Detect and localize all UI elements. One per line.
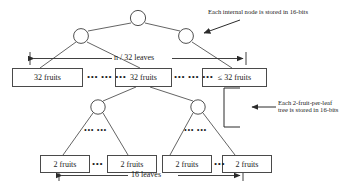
- edge-right-to-box3: [192, 42, 232, 68]
- bottom-leaf-box-4[interactable]: 2 fruits: [222, 155, 272, 173]
- bottom-ellipsis-1: •••: [92, 159, 103, 169]
- top-leaf-box-3-label: ≤ 32 fruits: [218, 73, 251, 82]
- root-node-circle: [130, 10, 145, 25]
- leaf-tree-note: Each 2-fruit-per-leaf tree is stored in …: [278, 99, 338, 114]
- left-internal-node-circle: [74, 29, 89, 44]
- bottom-leaf-box-2-label: 2 fruits: [121, 160, 144, 169]
- top-span-label: n / 32 leaves: [114, 54, 154, 63]
- top-ellipsis-2: ••• ••• •••: [174, 72, 213, 82]
- leaf-tree-note-line-1: Each 2-fruit-per-leaf: [278, 99, 338, 106]
- edge-left-to-box1: [40, 42, 76, 68]
- bottom-leaf-box-3-label: 2 fruits: [176, 160, 199, 169]
- left-subtree-node-circle: [91, 100, 105, 114]
- edge-rsub-to-box4: [203, 113, 235, 155]
- bottom-leaf-box-1[interactable]: 2 fruits: [40, 155, 90, 173]
- right-subtree-node-circle: [191, 100, 205, 114]
- edge-root-right: [145, 23, 180, 31]
- leaf-tree-bracket: [224, 88, 240, 127]
- right-internal-node-circle: [179, 29, 194, 44]
- subtree-ellipsis-left: ••• •••: [84, 127, 107, 136]
- top-ellipsis-1: ••• ••• •••: [87, 72, 126, 82]
- bottom-span-label: 16 leaves: [131, 171, 161, 180]
- bottom-leaf-box-1-label: 2 fruits: [54, 160, 77, 169]
- bottom-leaf-box-4-label: 2 fruits: [236, 160, 259, 169]
- subtree-ellipsis-right: ••• •••: [184, 127, 207, 136]
- bottom-leaf-box-3[interactable]: 2 fruits: [162, 155, 212, 173]
- top-leaf-box-2-label: 32 fruits: [130, 73, 157, 82]
- edge-root-left: [88, 23, 131, 31]
- top-leaf-box-1-label: 32 fruits: [34, 73, 61, 82]
- top-leaf-box-1[interactable]: 32 fruits: [12, 68, 83, 87]
- internal-node-note: Each internal node is stored in 16-bits: [208, 8, 308, 15]
- edge-box2-to-right-subtree: [150, 87, 193, 101]
- leaf-tree-note-line-2: tree is stored in 16-bits: [278, 106, 338, 113]
- bottom-ellipsis-2: •••: [214, 159, 225, 169]
- internal-node-note-arrow: [204, 20, 240, 33]
- diagram-canvas: 32 fruits 32 fruits ≤ 32 fruits ••• ••• …: [0, 0, 343, 193]
- edge-box2-to-left-subtree: [103, 87, 136, 101]
